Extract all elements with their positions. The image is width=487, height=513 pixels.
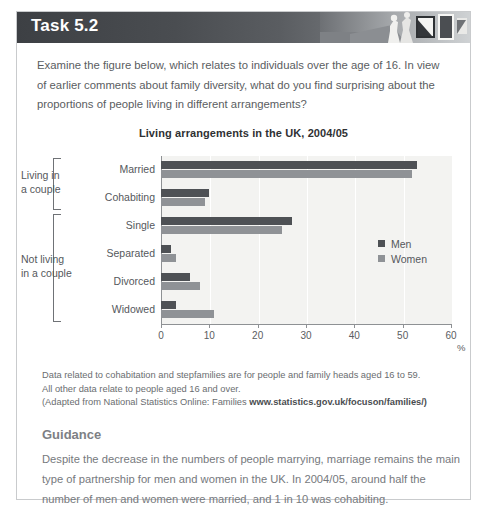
chart-group-label-line: Not living [21, 253, 97, 267]
chart-legend-swatch-icon [378, 255, 385, 262]
chart-x-tick [161, 324, 162, 328]
chart-bar [161, 189, 209, 197]
chart-bar [161, 217, 292, 225]
chart-bar [161, 161, 417, 169]
chart-bar [161, 245, 171, 253]
chart-legend-item[interactable]: Women [378, 251, 427, 266]
chart-bar [161, 282, 200, 290]
chart-x-tick [209, 324, 210, 328]
chart-group-label: Living ina couple [21, 169, 97, 196]
chart-x-tick-label: 0 [158, 330, 164, 341]
chart-x-axis-unit: % [457, 342, 465, 353]
chart-legend-item[interactable]: Men [378, 236, 427, 251]
header-photo-svg [320, 12, 470, 43]
task-card: Task 5.2 [16, 11, 471, 500]
chart-group-label-line: a couple [21, 183, 97, 197]
chart-x-tick [451, 324, 452, 328]
chart-x-tick-label: 20 [252, 330, 263, 341]
footnote-line-2: All other data relate to people aged 16 … [42, 383, 462, 397]
chart-x-tick [258, 324, 259, 328]
chart-bar [161, 254, 176, 262]
chart-bar [161, 273, 190, 281]
chart-gridline [355, 156, 356, 324]
chart-gridline [210, 156, 211, 324]
chart-category-label: Widowed [65, 303, 155, 315]
footnote-source: (Adapted from National Statistics Online… [42, 396, 462, 410]
chart-x-tick [403, 324, 404, 328]
task-title: Task 5.2 [31, 16, 98, 36]
chart-bar [161, 170, 412, 178]
footnote-source-prefix: (Adapted from National Statistics Online… [42, 397, 247, 407]
footnote-line-1: Data related to cohabitation and stepfam… [42, 369, 462, 383]
chart-legend: MenWomen [378, 236, 427, 266]
chart-footnote: Data related to cohabitation and stepfam… [42, 369, 462, 410]
task-instructions: Examine the figure below, which relates … [37, 56, 452, 115]
chart-group-label-line: in a couple [21, 267, 97, 281]
chart-x-tick-label: 60 [445, 330, 456, 341]
chart-gridline [259, 156, 260, 324]
guidance-heading: Guidance [42, 427, 101, 442]
chart-x-tick-label: 30 [300, 330, 311, 341]
chart-bar [161, 198, 205, 206]
chart-legend-swatch-icon [378, 240, 385, 247]
chart-title: Living arrangements in the UK, 2004/05 [17, 127, 470, 139]
chart-category-label: Single [65, 219, 155, 231]
chart-x-tick [354, 324, 355, 328]
chart-bar [161, 310, 214, 318]
worksheet-page: Task 5.2 [0, 0, 487, 513]
chart-bar [161, 301, 176, 309]
task-header: Task 5.2 [17, 12, 470, 43]
chart-x-tick-label: 50 [397, 330, 408, 341]
chart-legend-label: Men [391, 238, 411, 250]
header-photo-icon [320, 12, 470, 43]
guidance-body: Despite the decrease in the numbers of p… [42, 449, 462, 509]
chart-group-label: Not livingin a couple [21, 253, 97, 280]
chart-x-tick-label: 10 [204, 330, 215, 341]
chart-x-tick [306, 324, 307, 328]
chart-legend-label: Women [391, 253, 427, 265]
chart-gridline [307, 156, 308, 324]
chart-gridline [452, 156, 453, 324]
footnote-source-url[interactable]: www.statistics.gov.uk/focuson/families/) [249, 397, 427, 407]
chart-bar [161, 226, 282, 234]
chart-group-label-line: Living in [21, 169, 97, 183]
chart-container: Living arrangements in the UK, 2004/05 0… [17, 118, 470, 356]
chart-x-tick-label: 40 [349, 330, 360, 341]
